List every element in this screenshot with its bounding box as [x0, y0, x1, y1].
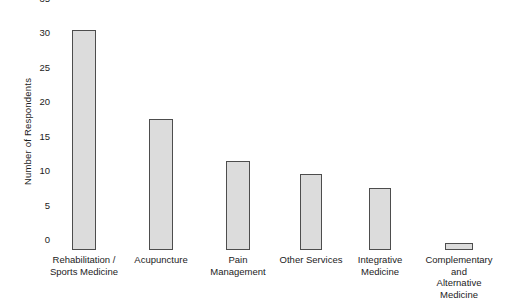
x-tick-label: Pain Management: [210, 254, 265, 277]
y-tick-label: 30: [39, 27, 50, 38]
bar-series: [56, 9, 521, 250]
bar: [300, 174, 322, 250]
y-tick-label: 10: [39, 165, 50, 176]
x-tick-label: Rehabilitation / Sports Medicine: [50, 254, 118, 277]
bar-slot: [72, 9, 96, 250]
bar: [369, 188, 391, 250]
x-tick-label: Integrative Medicine: [358, 254, 402, 277]
bar-slot: [226, 9, 250, 250]
y-tick-label: 20: [39, 96, 50, 107]
plot-area: 05101520253035: [56, 9, 521, 250]
bar: [72, 30, 96, 250]
y-tick-label: 15: [39, 130, 50, 141]
bar-slot: [369, 9, 391, 250]
bar: [226, 161, 250, 251]
y-tick-label: 5: [45, 199, 50, 210]
x-axis-category-labels: Rehabilitation / Sports MedicineAcupunct…: [56, 254, 521, 298]
x-tick-label: Complementary and Alternative Medicine: [425, 254, 492, 298]
bar-slot: [445, 9, 473, 250]
bar-slot: [300, 9, 322, 250]
y-tick-label: 35: [39, 0, 50, 4]
x-tick-label: Other Services: [280, 254, 343, 266]
y-tick-label: 0: [45, 234, 50, 245]
bar-slot: [149, 9, 173, 250]
x-tick-label: Acupuncture: [134, 254, 187, 266]
bar: [445, 243, 473, 250]
y-axis-title: Number of Respondents: [22, 47, 33, 217]
bar: [149, 119, 173, 250]
y-tick-label: 25: [39, 61, 50, 72]
bar-chart: Number of Respondents 05101520253035 Reh…: [0, 0, 527, 298]
